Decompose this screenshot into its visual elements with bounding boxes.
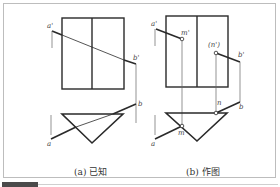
label-m-prime: m' (181, 29, 190, 37)
projection-diagram: a' b' b a a' m' (n') b' n b m (0, 0, 280, 187)
caption-panel-a: (a) 已知 (74, 165, 107, 178)
panel-b-drawing (155, 16, 240, 141)
label-b-prime: b' (238, 51, 244, 59)
bottom-bar (2, 182, 38, 187)
label-b-prime: b' (133, 54, 139, 62)
label-n: n (217, 99, 222, 107)
panel-a-drawing (51, 18, 136, 143)
label-a-prime: a' (151, 20, 157, 28)
label-a-prime: a' (47, 22, 53, 30)
label-b: b (138, 100, 143, 108)
label-b: b (239, 103, 244, 111)
label-n-prime: (n') (208, 41, 220, 49)
label-m: m (178, 129, 185, 137)
panel-b-labels: a' m' (n') b' n b m a (151, 20, 244, 148)
label-a: a (47, 140, 51, 148)
bottom-divider (38, 184, 278, 185)
panel-a-prism-rect (62, 18, 124, 89)
caption-panel-b: (b) 作图 (186, 165, 220, 178)
label-a: a (151, 140, 155, 148)
